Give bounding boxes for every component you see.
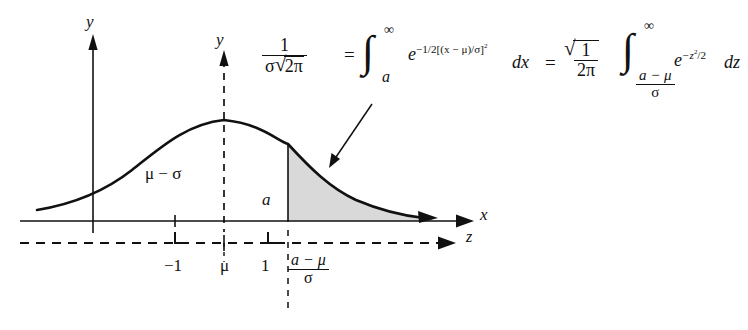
differential-dx: dx [512,52,529,73]
lhs-sigma: σ [265,56,275,76]
integrand-2-exponent-tail: /2 [697,49,706,61]
y-axis-left [88,34,97,233]
shaded-area-callout-arrow [329,104,372,168]
y-axis-left-label: y [86,12,94,32]
z-tick-label-plus-1: 1 [261,256,270,276]
integral-2-lower-numerator: a − μ [636,68,675,84]
integral-1-lower-limit: a [382,68,390,86]
integrand-1-exponent-power: 2 [484,42,487,49]
coefficient-2-numerator: 1 [574,41,598,60]
integral-symbol-2: ∫ [622,25,634,74]
y-axis-center-label: y [216,30,224,50]
z-tick-label-minus-1: −1 [164,256,182,276]
integrand-2-exponent: −z2/2 [682,49,706,61]
z-tick-minus-1 [175,232,186,243]
integral-2-lower-limit: a − μ σ [636,68,675,101]
formula-lhs-fraction: 1 σ2π [262,36,307,76]
integrand-1: e−1/2[(x − μ)/σ]2 [408,44,487,65]
label-mu-minus-sigma: μ − σ [145,164,181,184]
z-tick-label-a-minus-mu-over-sigma: a − μ σ [288,252,329,287]
integrand-2-base: e [674,50,682,70]
integrand-1-base: e [408,44,416,64]
integrand-2: e−z2/2 [674,50,706,71]
integral-1: ∫ ∞ a [362,32,374,67]
z-boundary-numerator: a − μ [288,252,329,269]
z-tick-plus-1 [268,232,279,243]
shaded-tail-area [288,144,432,221]
integral-2-lower-denominator: σ [636,84,675,101]
equals-sign-2: = [545,52,556,74]
z-axis [20,237,456,250]
lhs-denominator: σ2π [262,55,307,76]
coefficient-2-denominator: 2π [574,60,598,80]
y-axis-center-dashed [219,50,228,232]
integral-symbol-1: ∫ [362,27,374,76]
integral-1-upper-limit: ∞ [384,22,394,38]
x-axis-label: x [480,205,488,225]
integral-2-upper-limit: ∞ [644,18,654,34]
normal-density-curve [37,120,424,218]
z-tick-label-mu: μ [220,256,229,276]
z-axis-label: z [466,228,472,246]
differential-dz: dz [724,52,740,73]
figure-root: y y μ − σ a x z −1 μ 1 a − μ σ 1 σ2π = ∫… [0,0,748,330]
z-boundary-denominator: σ [288,269,329,287]
lhs-radicand: 2π [284,56,304,76]
integrand-2-exponent-text: −z [682,49,694,61]
label-a: a [262,190,271,210]
equals-sign-1: = [344,44,355,66]
integral-2: ∫ ∞ a − μ σ [622,30,634,65]
integrand-1-exponent-text: −1/2[(x − μ)/σ] [416,43,484,55]
coefficient-sqrt-one-over-two-pi: 1 2π [564,40,599,80]
integrand-1-exponent: −1/2[(x − μ)/σ]2 [416,43,487,55]
